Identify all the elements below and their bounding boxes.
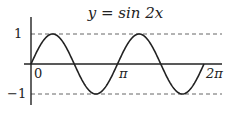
ytick-1: 1 [14,27,22,40]
ytick-minus1: −1 [7,87,26,100]
xtick-pi: π [119,67,128,80]
xtick-2pi: 2π [206,67,223,80]
plot-area [0,0,229,117]
xtick-0: 0 [34,67,42,80]
